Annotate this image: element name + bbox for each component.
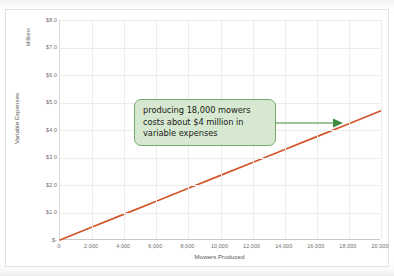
y-axis-tick-label: $2.0	[27, 182, 57, 188]
gridline-horizontal	[60, 213, 380, 214]
gridline-horizontal	[60, 75, 380, 76]
y-axis-tick-label: $5.0	[27, 99, 57, 105]
y-axis-tick-label: $8.0	[27, 17, 57, 23]
annotation-callout-text: producing 18,000 mowers costs about $4 m…	[143, 105, 268, 140]
gridline-horizontal	[60, 48, 380, 49]
gridline-horizontal	[60, 20, 380, 21]
y-axis-tick-label: $4.0	[27, 127, 57, 133]
y-axis-tick-label: $1.0	[27, 209, 57, 215]
y-axis-tick-label: $6.0	[27, 72, 57, 78]
gridline-horizontal	[60, 158, 380, 159]
annotation-callout-box: producing 18,000 mowers costs about $4 m…	[134, 99, 276, 146]
gridline-vertical	[381, 20, 382, 239]
x-axis-title: Mowers Produced	[59, 253, 380, 260]
y-axis-title: Variable Expenses	[13, 79, 20, 159]
y-axis-tick-label: $7.0	[27, 44, 57, 50]
x-axis-tick-label: 20,000	[360, 243, 394, 249]
chart-card: Millions Variable Expenses $-$1.0$2.0$3.…	[5, 9, 389, 267]
y-axis-tick-labels: $-$1.0$2.0$3.0$4.0$5.0$6.0$7.0$8.0	[24, 20, 57, 240]
gridline-horizontal	[60, 185, 380, 186]
scanned-page-background: Millions Variable Expenses $-$1.0$2.0$3.…	[0, 0, 394, 276]
annotation-arrow-icon	[275, 115, 345, 131]
y-axis-tick-label: $-	[27, 237, 57, 243]
y-axis-tick-label: $3.0	[27, 154, 57, 160]
